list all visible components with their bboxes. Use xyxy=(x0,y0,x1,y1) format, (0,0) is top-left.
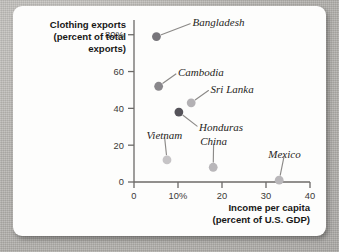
x-axis-title: Income per capita (percent of U.S. GDP) xyxy=(212,202,310,225)
point-label-sri-lanka: Sri Lanka xyxy=(211,83,255,95)
data-point-honduras xyxy=(174,108,183,117)
point-label-honduras: Honduras xyxy=(198,121,243,133)
data-point-mexico xyxy=(275,176,284,185)
y-axis-title: Clothing exports (percent of total expor… xyxy=(50,19,126,54)
leader-line-bangladesh xyxy=(161,24,190,35)
point-label-china: China xyxy=(200,135,227,147)
scatter-chart: 020406080% 010%203040 BangladeshCambodia… xyxy=(13,6,326,236)
point-label-vietnam: Vietnam xyxy=(146,129,182,141)
y-axis-title-line-2: (percent of total xyxy=(54,31,127,42)
data-points-group xyxy=(152,32,284,184)
y-axis-title-line-1: Clothing exports xyxy=(50,19,126,30)
point-label-bangladesh: Bangladesh xyxy=(193,16,245,28)
x-tick-label: 30 xyxy=(261,191,272,201)
data-point-bangladesh xyxy=(152,32,161,41)
x-axis-title-line-2: (percent of U.S. GDP) xyxy=(212,214,310,225)
data-point-sri-lanka xyxy=(187,98,196,107)
y-axis-title-line-3: exports) xyxy=(88,43,126,54)
chart-plot-area: 020406080% 010%203040 BangladeshCambodia… xyxy=(13,6,326,236)
leader-line-honduras xyxy=(183,115,197,126)
data-point-vietnam xyxy=(163,156,172,165)
x-axis-ticks: 010%203040 xyxy=(131,182,315,201)
point-labels-group: BangladeshCambodiaSri LankaHondurasVietn… xyxy=(146,16,301,160)
leader-line-sri-lanka xyxy=(195,91,208,100)
y-tick-label: 60 xyxy=(113,67,124,77)
y-tick-label: 40 xyxy=(113,104,124,114)
leader-lines-group xyxy=(161,24,284,175)
x-tick-label: 40 xyxy=(305,191,316,201)
x-tick-label: 10% xyxy=(169,191,188,201)
leader-line-cambodia xyxy=(163,74,176,83)
figure-card: 020406080% 010%203040 BangladeshCambodia… xyxy=(13,6,326,236)
y-tick-label: 0 xyxy=(119,177,124,187)
x-tick-label: 20 xyxy=(217,191,228,201)
point-label-cambodia: Cambodia xyxy=(178,66,224,78)
x-axis-title-line-1: Income per capita xyxy=(228,202,310,213)
data-point-cambodia xyxy=(154,82,163,91)
y-tick-label: 20 xyxy=(113,141,124,151)
point-label-mexico: Mexico xyxy=(267,148,301,160)
data-point-china xyxy=(209,163,218,172)
x-tick-label: 0 xyxy=(131,191,136,201)
